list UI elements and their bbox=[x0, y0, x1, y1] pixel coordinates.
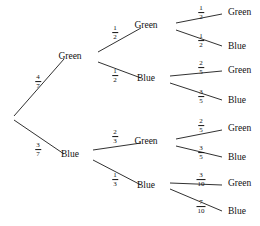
tree-edge-g-to-gg bbox=[98, 28, 141, 52]
branch-probability-ggb: 12 bbox=[198, 33, 204, 49]
fraction-numerator: 1 bbox=[112, 68, 118, 75]
fraction-numerator: 1 bbox=[198, 33, 204, 40]
fraction-denominator: 7 bbox=[35, 82, 41, 90]
tree-node-label-gbb: Blue bbox=[228, 96, 246, 106]
fraction-denominator: 2 bbox=[198, 41, 204, 49]
tree-node-label-bbb: Blue bbox=[228, 207, 246, 217]
tree-node-label-gg: Green bbox=[134, 21, 157, 31]
fraction-numerator: 1 bbox=[112, 25, 118, 32]
fraction-numerator: 3 bbox=[197, 172, 206, 179]
fraction-denominator: 3 bbox=[112, 180, 118, 188]
fraction-denominator: 3 bbox=[112, 137, 118, 145]
fraction-numerator: 4 bbox=[35, 74, 41, 81]
fraction-denominator: 2 bbox=[112, 33, 118, 41]
fraction-denominator: 5 bbox=[198, 68, 204, 76]
fraction-denominator: 7 bbox=[35, 150, 41, 158]
tree-branch-lines bbox=[0, 0, 260, 226]
tree-node-label-gb: Blue bbox=[137, 74, 155, 84]
fraction-denominator: 5 bbox=[198, 97, 204, 105]
fraction-numerator: 3 bbox=[198, 89, 204, 96]
tree-node-label-gbg: Green bbox=[228, 66, 251, 76]
tree-edge-gb-to-gbb bbox=[170, 83, 222, 100]
fraction-numerator: 3 bbox=[35, 142, 41, 149]
tree-edge-gb-to-gbg bbox=[170, 71, 222, 76]
fraction-denominator: 5 bbox=[198, 153, 204, 161]
tree-node-label-bb: Blue bbox=[137, 181, 155, 191]
branch-probability-bgg: 25 bbox=[198, 118, 204, 134]
tree-edge-g-to-gb bbox=[98, 62, 141, 78]
tree-node-label-bbg: Green bbox=[228, 179, 251, 189]
fraction-numerator: 2 bbox=[198, 118, 204, 125]
tree-node-label-g: Green bbox=[58, 52, 81, 62]
fraction-numerator: 2 bbox=[198, 60, 204, 67]
fraction-numerator: 3 bbox=[198, 145, 204, 152]
tree-node-label-bg: Green bbox=[134, 137, 157, 147]
tree-node-label-b: Blue bbox=[61, 150, 79, 160]
branch-probability-ggg: 12 bbox=[198, 5, 204, 21]
fraction-numerator: 1 bbox=[112, 172, 118, 179]
fraction-denominator: 5 bbox=[198, 126, 204, 134]
branch-probability-bgb: 35 bbox=[198, 145, 204, 161]
branch-probability-gb: 12 bbox=[112, 68, 118, 84]
tree-node-label-ggb: Blue bbox=[228, 42, 246, 52]
tree-node-label-bgg: Green bbox=[228, 124, 251, 134]
tree-node-label-ggg: Green bbox=[228, 8, 251, 18]
branch-probability-bg: 23 bbox=[112, 129, 118, 145]
branch-probability-bbg: 310 bbox=[197, 172, 206, 188]
fraction-numerator: 1 bbox=[198, 5, 204, 12]
fraction-denominator: 10 bbox=[197, 207, 206, 215]
fraction-denominator: 2 bbox=[112, 76, 118, 84]
tree-node-label-bgb: Blue bbox=[228, 153, 246, 163]
branch-probability-b: 37 bbox=[35, 142, 41, 158]
fraction-denominator: 10 bbox=[197, 180, 206, 188]
branch-probability-bbb: 710 bbox=[197, 199, 206, 215]
fraction-numerator: 2 bbox=[112, 129, 118, 136]
fraction-denominator: 2 bbox=[198, 13, 204, 21]
branch-probability-bb: 13 bbox=[112, 172, 118, 188]
branch-probability-gg: 12 bbox=[112, 25, 118, 41]
branch-probability-gbg: 25 bbox=[198, 60, 204, 76]
fraction-numerator: 7 bbox=[197, 199, 206, 206]
branch-probability-g: 47 bbox=[35, 74, 41, 90]
branch-probability-gbb: 35 bbox=[198, 89, 204, 105]
probability-tree-diagram: GreenBlueGreenBlueGreenBlueGreenBlueGree… bbox=[0, 0, 260, 226]
